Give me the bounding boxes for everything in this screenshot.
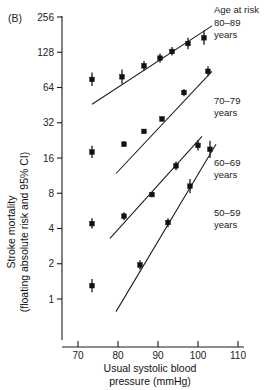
data-point-marker xyxy=(90,150,95,155)
y-tick-label: 1 xyxy=(48,294,54,305)
legend-item-range: 70–79 xyxy=(214,95,240,106)
x-axis-title-line1: Usual systolic blood xyxy=(104,362,197,374)
y-tick-label: 64 xyxy=(43,82,55,93)
fit-line xyxy=(116,71,212,173)
y-tick-label: 128 xyxy=(37,47,54,58)
fit-line xyxy=(116,144,216,311)
y-tick-label: 16 xyxy=(43,153,55,164)
y-tick-label: 256 xyxy=(37,12,54,23)
legend-title: Age at risk xyxy=(214,4,259,15)
data-point-marker xyxy=(158,56,163,61)
x-tick-label: 110 xyxy=(230,350,246,361)
x-axis-title-line2: pressure (mmHg) xyxy=(109,375,191,387)
data-point-marker xyxy=(122,142,127,147)
y-tick-label: 8 xyxy=(48,188,54,199)
x-tick-label: 100 xyxy=(190,350,207,361)
legend-group: Age at risk80–89years70–79years60–69year… xyxy=(214,4,259,230)
data-point-marker xyxy=(142,64,147,69)
legend-item-unit: years xyxy=(214,219,237,230)
data-point-marker xyxy=(174,164,179,169)
fit-lines-group xyxy=(92,26,216,312)
y-tick-label: 32 xyxy=(43,117,55,128)
y-axis-title-line1: Stroke mortality xyxy=(5,195,17,269)
legend-item-range: 80–89 xyxy=(214,17,240,28)
data-point-marker xyxy=(170,49,175,54)
data-point-marker xyxy=(90,77,95,82)
data-point-marker xyxy=(166,220,171,225)
legend-item-range: 60–69 xyxy=(214,157,240,168)
panel-label: (B) xyxy=(8,12,22,24)
x-tick-label: 90 xyxy=(152,350,164,361)
y-tick-label: 4 xyxy=(48,223,54,234)
data-point-marker xyxy=(138,263,143,268)
data-point-marker xyxy=(160,117,165,122)
legend-item-unit: years xyxy=(214,169,237,180)
data-point-marker xyxy=(186,41,191,46)
data-point-marker xyxy=(182,90,187,95)
x-tick-label: 80 xyxy=(112,350,124,361)
x-axis-ticks: 708090100110 xyxy=(72,341,246,361)
legend-item-unit: years xyxy=(214,107,237,118)
data-point-marker xyxy=(150,192,155,197)
data-point-marker xyxy=(188,184,193,189)
data-point-marker xyxy=(196,143,201,148)
x-tick-label: 70 xyxy=(72,350,84,361)
data-point-marker xyxy=(90,283,95,288)
legend-item-unit: years xyxy=(214,29,237,40)
legend-item-range: 50–59 xyxy=(214,207,240,218)
data-point-marker xyxy=(206,69,211,74)
data-point-marker xyxy=(208,147,213,152)
stroke-mortality-scatter-chart: (B) Stroke mortality (floating absolute … xyxy=(0,0,274,390)
data-point-marker xyxy=(120,74,125,79)
data-point-marker xyxy=(142,129,147,134)
data-point-marker xyxy=(122,214,127,219)
y-axis-title-line2: (floating absolute risk and 95% CI) xyxy=(18,152,30,313)
figure-panel-b: (B) Stroke mortality (floating absolute … xyxy=(0,0,274,390)
data-point-marker xyxy=(202,36,207,41)
y-tick-label: 2 xyxy=(48,258,54,269)
fit-line xyxy=(92,26,212,104)
data-point-marker xyxy=(90,221,95,226)
y-axis-ticks: 2561286432168421 xyxy=(37,12,62,305)
